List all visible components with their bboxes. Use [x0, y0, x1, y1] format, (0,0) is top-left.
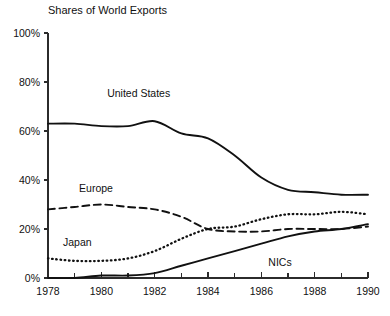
series-line-japan	[48, 212, 368, 261]
series-label-japan: Japan	[63, 236, 92, 248]
y-tick-label: 80%	[19, 76, 40, 88]
x-tick-label: 1988	[303, 285, 327, 297]
y-tick-label: 60%	[19, 125, 40, 137]
series-label-nics: NICs	[268, 256, 291, 268]
x-tick-label: 1990	[356, 285, 380, 297]
chart-annotations: United StatesEuropeJapanNICs	[63, 87, 292, 268]
axis-lines	[48, 33, 368, 278]
chart-series	[48, 121, 368, 278]
chart-axes: 0%20%40%60%80%100%1978198019821984198619…	[13, 27, 380, 297]
x-tick-label: 1984	[196, 285, 220, 297]
chart-container: Shares of World Exports 0%20%40%60%80%10…	[0, 0, 390, 316]
series-label-united-states: United States	[107, 87, 170, 99]
y-tick-label: 100%	[13, 27, 40, 39]
y-tick-label: 20%	[19, 223, 40, 235]
x-tick-label: 1978	[36, 285, 60, 297]
series-label-europe: Europe	[79, 182, 113, 194]
x-tick-label: 1982	[143, 285, 167, 297]
y-tick-label: 40%	[19, 174, 40, 186]
x-tick-label: 1986	[250, 285, 274, 297]
chart-plot: 0%20%40%60%80%100%1978198019821984198619…	[0, 0, 390, 316]
x-tick-label: 1980	[90, 285, 114, 297]
y-tick-label: 0%	[25, 272, 40, 284]
series-line-europe	[48, 205, 368, 232]
series-line-nics	[48, 224, 368, 278]
